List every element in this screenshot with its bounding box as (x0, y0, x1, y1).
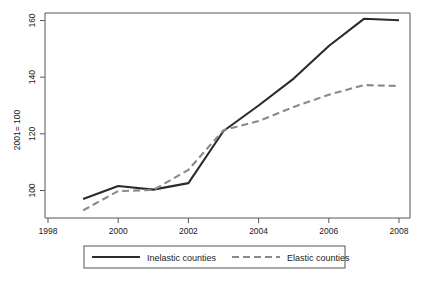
x-tick-label: 2002 (179, 226, 198, 236)
x-tick-label: 1998 (39, 226, 58, 236)
line-chart: 100120140160 199820002002200420062008 20… (0, 0, 423, 281)
y-axis-tick-labels: 100120140160 (27, 13, 37, 197)
x-tick-label: 2006 (319, 226, 338, 236)
legend-label-inelastic: Inelastic counties (147, 253, 217, 263)
x-axis-ticks (48, 218, 399, 223)
y-tick-label: 100 (27, 183, 37, 197)
x-tick-label: 2000 (109, 226, 128, 236)
y-tick-label: 160 (27, 13, 37, 27)
x-tick-label: 2008 (390, 226, 409, 236)
y-tick-label: 120 (27, 126, 37, 140)
plot-frame (45, 13, 410, 218)
y-axis-ticks (40, 21, 45, 191)
plot-frame-border (45, 13, 410, 218)
series-line-inelastic-counties (83, 19, 399, 199)
series-line-elastic-counties (83, 85, 399, 210)
y-axis-title: 2001= 100 (12, 110, 22, 151)
x-tick-label: 2004 (249, 226, 268, 236)
x-axis-tick-labels: 199820002002200420062008 (39, 226, 409, 236)
chart-container: 100120140160 199820002002200420062008 20… (0, 0, 423, 281)
y-tick-label: 140 (27, 70, 37, 84)
legend-label-elastic: Elastic counties (287, 253, 350, 263)
chart-legend: Inelastic counties Elastic counties (84, 246, 350, 268)
data-series-group (83, 19, 399, 211)
